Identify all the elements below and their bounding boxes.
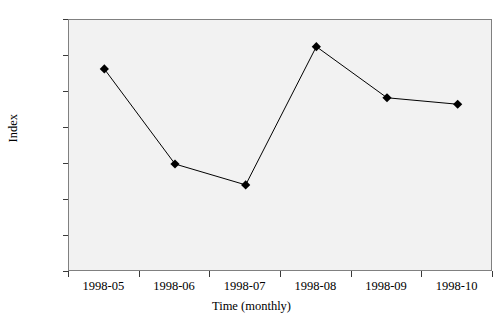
- x-tick-mark: [209, 271, 210, 277]
- data-point-marker: [312, 42, 321, 51]
- x-tick-label: 1998-10: [412, 280, 502, 293]
- x-tick-mark: [421, 271, 422, 277]
- x-tick-mark: [280, 271, 281, 277]
- x-tick-mark: [68, 271, 69, 277]
- x-axis-title: Time (monthly): [0, 299, 503, 314]
- x-tick-mark: [492, 271, 493, 277]
- x-tick-mark: [351, 271, 352, 277]
- data-point-marker: [382, 93, 391, 102]
- data-point-marker: [100, 64, 109, 73]
- y-axis-title: Index: [6, 125, 21, 143]
- plot-area: [68, 19, 492, 271]
- chart-figure: Index 126.0126.5127.0127.5128.0128.5129.…: [0, 0, 503, 322]
- series-line: [104, 47, 457, 185]
- series-line-and-markers: [69, 20, 493, 272]
- data-point-marker: [453, 100, 462, 109]
- data-point-marker: [241, 180, 250, 189]
- x-tick-mark: [139, 271, 140, 277]
- data-point-marker: [170, 159, 179, 168]
